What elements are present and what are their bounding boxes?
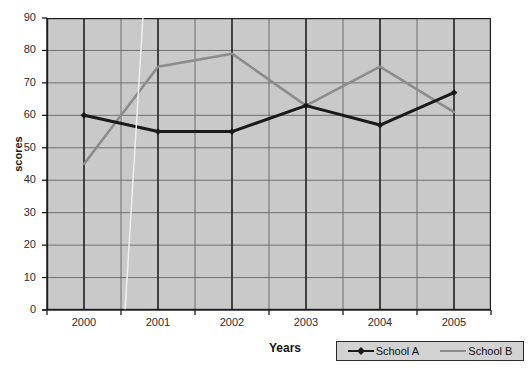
x-axis-tick-labels: 200020012002200320042005	[0, 0, 532, 372]
legend-label-school-b: School B	[468, 345, 512, 357]
x-tick-label: 2001	[128, 316, 188, 328]
line-chart: Annual scores scores 9080706050403020100…	[0, 0, 532, 372]
diamond-marker-icon	[348, 346, 374, 356]
x-tick-label: 2005	[424, 316, 484, 328]
line-swatch-icon	[440, 346, 466, 356]
legend-item-school-b[interactable]: School B	[440, 345, 512, 357]
legend-item-school-a[interactable]: School A	[348, 345, 419, 357]
x-tick-label: 2003	[276, 316, 336, 328]
x-tick-label: 2000	[54, 316, 114, 328]
x-tick-label: 2002	[202, 316, 262, 328]
x-tick-label: 2004	[350, 316, 410, 328]
legend-label-school-a: School A	[376, 345, 419, 357]
chart-legend: School A School B	[336, 341, 524, 361]
